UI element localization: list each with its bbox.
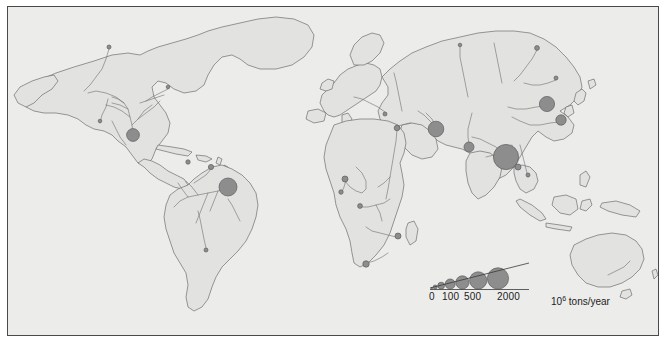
discharge-dot [428, 121, 444, 137]
legend-units-label: 106 tons/year [551, 295, 610, 307]
land-new-guinea [600, 201, 640, 217]
legend-tick-100: 100 [442, 291, 459, 302]
discharge-dot [107, 45, 111, 49]
legend-graphic [427, 259, 647, 311]
discharge-dot [515, 164, 521, 170]
discharge-dot [204, 248, 208, 252]
discharge-dot [342, 176, 348, 182]
discharge-dot [394, 125, 400, 131]
discharge-dot [383, 112, 387, 116]
discharge-dot [98, 119, 102, 123]
discharge-dot [363, 261, 369, 267]
land-central-america [138, 159, 188, 189]
land-africa [324, 119, 406, 267]
discharge-dot [166, 85, 170, 89]
discharge-dot [358, 204, 363, 209]
discharge-dot [458, 43, 462, 47]
discharge-dot [493, 144, 518, 169]
land-philippines [580, 171, 590, 187]
discharge-dot [554, 76, 558, 80]
land-cuba [156, 145, 192, 156]
discharge-dot [395, 233, 401, 239]
legend-tick-500: 500 [464, 291, 481, 302]
land-north-america [22, 17, 314, 165]
land-borneo [552, 195, 578, 215]
land-iberia [306, 109, 326, 123]
legend-swatch [456, 276, 469, 289]
land-new-zealand [652, 269, 658, 279]
land-hispaniola [196, 155, 212, 162]
land-scandinavia [350, 33, 384, 65]
land-sumatra [516, 199, 546, 221]
legend-tick-0: 0 [429, 291, 435, 302]
discharge-dot [339, 190, 343, 194]
land-british-isles [320, 79, 334, 91]
discharge-dot [208, 164, 213, 169]
discharge-dot [464, 142, 474, 152]
figure-root: 0 100 500 2000 106 tons/year [0, 0, 668, 343]
land-java [546, 223, 572, 231]
discharge-dot [556, 115, 566, 125]
discharge-dot [535, 46, 540, 51]
discharge-dot [186, 160, 190, 164]
legend-tick-2000: 2000 [497, 291, 520, 302]
discharge-dot [539, 96, 554, 111]
discharge-dot [219, 178, 237, 196]
land-madagascar [406, 221, 418, 245]
land-sulawesi [580, 199, 592, 211]
discharge-dot [526, 173, 530, 177]
discharge-dot [127, 129, 140, 142]
map-frame: 0 100 500 2000 106 tons/year [7, 6, 659, 336]
legend: 0 100 500 2000 106 tons/year [427, 259, 647, 311]
